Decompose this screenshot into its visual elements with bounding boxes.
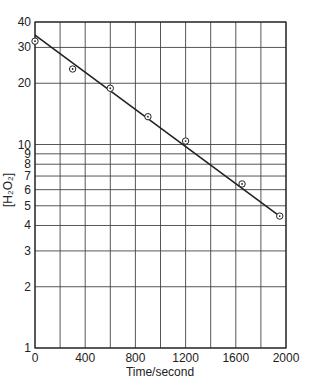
y-tick-label: 4 — [24, 218, 31, 232]
x-tick-labels: 0400800120016002000 — [32, 351, 300, 365]
y-axis-label: [H₂O₂] — [1, 173, 15, 207]
y-tick-label: 30 — [18, 40, 32, 54]
x-tick-label: 400 — [75, 351, 95, 365]
x-tick-label: 1600 — [222, 351, 249, 365]
x-tick-label: 2000 — [273, 351, 300, 365]
y-tick-label: 10 — [18, 138, 32, 152]
y-tick-label: 2 — [24, 280, 31, 294]
data-point — [32, 38, 38, 44]
y-tick-label: 5 — [24, 199, 31, 213]
x-tick-label: 0 — [32, 351, 39, 365]
data-point — [107, 85, 113, 91]
data-point — [69, 66, 75, 72]
data-point — [239, 181, 245, 187]
y-tick-label: 6 — [24, 183, 31, 197]
data-point — [277, 213, 283, 219]
y-tick-labels: 12345678910203040 — [18, 15, 32, 355]
y-tick-label: 1 — [24, 341, 31, 355]
chart: 12345678910203040 0400800120016002000 Ti… — [0, 0, 311, 387]
data-point — [145, 113, 151, 119]
y-tick-label: 20 — [18, 76, 32, 90]
data-points — [32, 38, 283, 219]
x-tick-label: 800 — [125, 351, 145, 365]
x-tick-label: 1200 — [172, 351, 199, 365]
x-axis-label: Time/second — [126, 365, 194, 379]
data-point — [182, 138, 188, 144]
y-tick-label: 40 — [18, 15, 32, 29]
y-tick-label: 3 — [24, 244, 31, 258]
